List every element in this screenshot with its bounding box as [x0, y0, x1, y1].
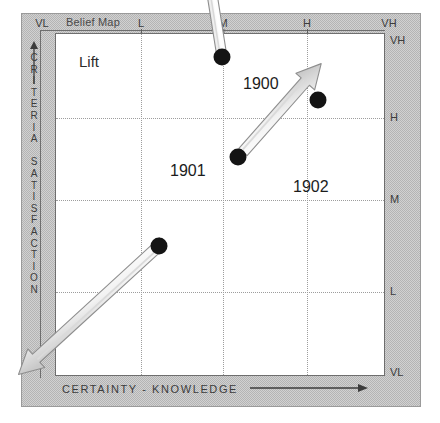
- x-tick-vl: VL: [35, 17, 48, 29]
- data-point[interactable]: [151, 238, 168, 255]
- y-axis-title-char: R: [26, 64, 42, 76]
- y-axis-title-char: I: [26, 122, 42, 134]
- y-axis-title-char: T: [26, 180, 42, 192]
- y-axis-title-char: I: [26, 261, 42, 273]
- y-axis-title-char: O: [26, 272, 42, 284]
- data-point[interactable]: [230, 149, 247, 166]
- gridline-horizontal: [56, 118, 384, 119]
- y-tick-l: L: [390, 285, 396, 297]
- x-tick-h: H: [303, 17, 311, 29]
- y-axis-title-char: C: [26, 238, 42, 250]
- x-tick-m: M: [218, 17, 227, 29]
- gridline-vertical: [307, 34, 308, 375]
- y-axis-title-char: T: [26, 87, 42, 99]
- y-axis-title-char: A: [26, 168, 42, 180]
- y-axis-title-char: R: [26, 110, 42, 122]
- x-tick-l: L: [138, 17, 144, 29]
- gridline-vertical: [223, 34, 224, 375]
- y-axis-title-char: I: [26, 75, 42, 87]
- y-axis-title-char: A: [26, 226, 42, 238]
- plot-area: [55, 33, 385, 376]
- y-axis-title-char: E: [26, 98, 42, 110]
- x-axis-title: CERTAINTY - KNOWLEDGE: [62, 383, 238, 395]
- data-point[interactable]: [310, 92, 327, 109]
- y-axis-title-char: N: [26, 284, 42, 296]
- y-axis-title: CRITERIA SATISFACTION: [26, 52, 42, 295]
- annotation-lift: Lift: [79, 53, 99, 70]
- annotation-1901: 1901: [170, 162, 206, 180]
- y-axis-title-char: I: [26, 191, 42, 203]
- data-point[interactable]: [214, 49, 231, 66]
- annotation-1900: 1900: [243, 75, 279, 93]
- y-axis-title-char: [26, 145, 42, 157]
- right-arrow-icon: [250, 380, 370, 396]
- y-axis-title-char: S: [26, 203, 42, 215]
- page-title: Belief Map: [66, 16, 120, 28]
- annotation-1902: 1902: [293, 178, 329, 196]
- y-axis-title-char: C: [26, 52, 42, 64]
- y-axis-title-char: A: [26, 133, 42, 145]
- y-tick-m: M: [390, 193, 399, 205]
- y-axis-title-char: T: [26, 249, 42, 261]
- y-tick-h: H: [390, 111, 398, 123]
- belief-map-figure: Belief Map VL L M H VH VH H M L VL CRITE…: [0, 0, 440, 423]
- y-tick-vh: VH: [390, 34, 405, 46]
- map-top-rail: [40, 30, 385, 31]
- x-tick-vh-top: VH: [381, 17, 396, 29]
- y-tick-vl: VL: [390, 366, 403, 378]
- gridline-horizontal: [56, 200, 384, 201]
- gridline-horizontal: [56, 292, 384, 293]
- y-axis-title-char: F: [26, 214, 42, 226]
- y-axis-title-char: S: [26, 156, 42, 168]
- gridline-vertical: [141, 34, 142, 375]
